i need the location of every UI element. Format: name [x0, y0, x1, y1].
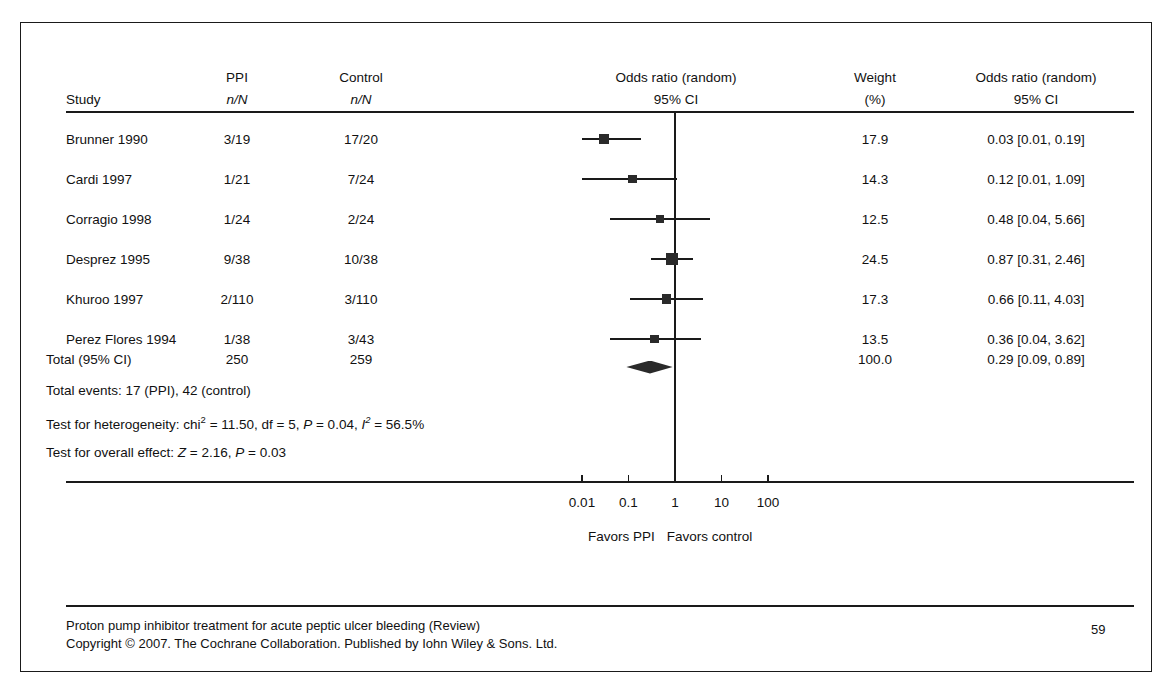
- row-weight-value: 17.3: [862, 293, 888, 307]
- axis-tick: [767, 475, 768, 482]
- favors-ppi-label: Favors PPI: [588, 530, 655, 544]
- row-study-name: Khuroo 1997: [66, 293, 143, 307]
- report-page: Study PPI n/N Control n/N Odds ratio (ra…: [20, 22, 1152, 672]
- axis-tick: [628, 475, 629, 482]
- oe-z-rest: = 2.16,: [186, 445, 235, 460]
- axis-tick-label: 100: [757, 496, 780, 510]
- row-weight-value: 24.5: [862, 253, 888, 267]
- axis-tick-label: 0.1: [619, 496, 638, 510]
- axis-tick-label: 10: [714, 496, 729, 510]
- axis-tick-label: 0.01: [569, 496, 595, 510]
- study-marker-square: [656, 215, 664, 223]
- row-ppi-value: 3/19: [224, 133, 250, 147]
- header-plot-sub: 95% CI: [654, 93, 698, 107]
- het-i-rest: = 56.5%: [370, 417, 424, 432]
- row-weight-value: 13.5: [862, 333, 888, 347]
- study-marker-square: [650, 335, 659, 344]
- row-control-value: 17/20: [344, 133, 378, 147]
- row-weight-value: 14.3: [862, 173, 888, 187]
- row-study-name: Brunner 1990: [66, 133, 148, 147]
- header-weight-sub: (%): [865, 93, 886, 107]
- total-events-text: Total events: 17 (PPI), 42 (control): [46, 384, 251, 398]
- header-control: Control: [339, 71, 383, 85]
- header-ppi-sub: n/N: [226, 93, 247, 107]
- oe-p-rest: = 0.03: [244, 445, 286, 460]
- confidence-interval-line: [651, 258, 693, 259]
- oe-z: Z: [178, 445, 186, 460]
- row-total-control: 259: [350, 353, 373, 367]
- footer-copyright: Copyright © 2007. The Cochrane Collabora…: [66, 635, 557, 652]
- confidence-interval-line: [582, 178, 677, 179]
- row-ppi-value: 9/38: [224, 253, 250, 267]
- pooled-effect-diamond: [626, 361, 672, 374]
- row-control-value: 7/24: [348, 173, 374, 187]
- row-study-name: Cardi 1997: [66, 173, 132, 187]
- favors-control-label: Favors control: [667, 530, 753, 544]
- axis-tick: [674, 475, 675, 482]
- reference-line: [674, 112, 675, 481]
- confidence-interval-line: [610, 338, 701, 339]
- forest-plot: [21, 23, 1153, 673]
- row-control-value: 3/43: [348, 333, 374, 347]
- header-study: Study: [66, 93, 101, 107]
- row-or-value: 0.12 [0.01, 1.09]: [987, 173, 1085, 187]
- header-or-sub: 95% CI: [1014, 93, 1058, 107]
- row-or-value: 0.48 [0.04, 5.66]: [987, 213, 1085, 227]
- header-weight: Weight: [854, 71, 896, 85]
- oe-prefix: Test for overall effect:: [46, 445, 178, 460]
- row-or-value: 0.87 [0.31, 2.46]: [987, 253, 1085, 267]
- header-plot: Odds ratio (random): [616, 71, 737, 85]
- confidence-interval-line: [630, 298, 703, 299]
- axis-tick: [581, 475, 582, 482]
- confidence-interval-line: [610, 218, 710, 219]
- row-ppi-value: 1/38: [224, 333, 250, 347]
- row-study-name: Perez Flores 1994: [66, 333, 176, 347]
- header-ppi: PPI: [226, 71, 248, 85]
- row-or-value: 0.03 [0.01, 0.19]: [987, 133, 1085, 147]
- header-rule: [66, 111, 1134, 113]
- header-or: Odds ratio (random): [976, 71, 1097, 85]
- row-control-value: 10/38: [344, 253, 378, 267]
- het-prefix: Test for heterogeneity: chi: [46, 417, 201, 432]
- heterogeneity-text: Test for heterogeneity: chi2 = 11.50, df…: [46, 415, 424, 431]
- header-control-sub: n/N: [350, 93, 371, 107]
- row-study-name: Corragio 1998: [66, 213, 152, 227]
- row-or-value: 0.66 [0.11, 4.03]: [988, 293, 1085, 307]
- footer-rule: [66, 605, 1134, 607]
- row-ppi-value: 2/110: [221, 293, 254, 307]
- row-control-value: 3/110: [345, 293, 378, 307]
- row-total-ppi: 250: [226, 353, 249, 367]
- het-mid: = 11.50, df = 5,: [206, 417, 303, 432]
- axis-tick-label: 1: [671, 496, 679, 510]
- row-study-name: Desprez 1995: [66, 253, 150, 267]
- row-total-or: 0.29 [0.09, 0.89]: [987, 353, 1085, 367]
- footer-title: Proton pump inhibitor treatment for acut…: [66, 617, 480, 634]
- page-number: 59: [1091, 621, 1105, 638]
- row-ppi-value: 1/24: [224, 213, 250, 227]
- het-p-rest: = 0.04,: [312, 417, 361, 432]
- overall-effect-text: Test for overall effect: Z = 2.16, P = 0…: [46, 446, 286, 460]
- row-ppi-value: 1/21: [224, 173, 250, 187]
- study-marker-square: [628, 175, 637, 184]
- row-weight-value: 12.5: [862, 213, 888, 227]
- axis-rule: [66, 481, 1134, 483]
- het-p: P: [303, 417, 312, 432]
- axis-tick: [721, 475, 722, 482]
- study-marker-square: [662, 294, 672, 304]
- study-marker-square: [666, 253, 678, 265]
- row-total-weight: 100.0: [858, 353, 892, 367]
- oe-p: P: [235, 445, 244, 460]
- row-weight-value: 17.9: [862, 133, 888, 147]
- confidence-interval-line: [582, 138, 641, 139]
- study-marker-square: [599, 134, 609, 144]
- row-control-value: 2/24: [348, 213, 374, 227]
- row-or-value: 0.36 [0.04, 3.62]: [987, 333, 1085, 347]
- row-total-label: Total (95% CI): [46, 353, 132, 367]
